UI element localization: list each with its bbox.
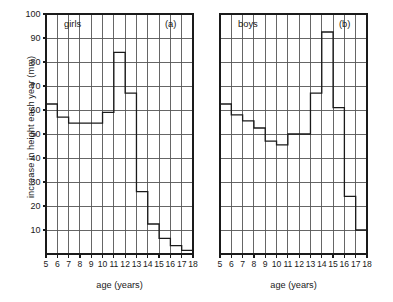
- x-tick-label: 17: [351, 259, 361, 269]
- y-tick-label: 40: [30, 153, 40, 163]
- x-tick-label: 6: [229, 259, 234, 269]
- y-tick-label: 50: [30, 129, 40, 139]
- x-tick-label: 16: [340, 259, 350, 269]
- x-tick-label: 5: [44, 259, 49, 269]
- x-tick-label: 10: [98, 259, 108, 269]
- x-tick-label: 11: [109, 259, 118, 269]
- boys-plot-svg: 56789101112131415161718: [196, 0, 393, 302]
- x-tick-label: 15: [154, 259, 164, 269]
- x-tick-label: 8: [252, 259, 257, 269]
- boys-panel-title: boys: [238, 18, 258, 29]
- x-tick-label: 9: [263, 259, 268, 269]
- x-tick-label: 12: [120, 259, 130, 269]
- y-tick-label: 30: [30, 177, 40, 187]
- x-tick-label: 5: [218, 259, 223, 269]
- x-tick-label: 18: [362, 259, 372, 269]
- x-tick-label: 15: [328, 259, 338, 269]
- figure-container: increase in height each year (mm) 102030…: [0, 0, 393, 302]
- x-tick-label: 11: [283, 259, 292, 269]
- y-tick-label: 80: [30, 57, 40, 67]
- x-tick-label: 7: [66, 259, 71, 269]
- girls-panel-title: girls: [64, 18, 81, 29]
- x-tick-label: 14: [317, 259, 327, 269]
- y-tick-label: 90: [30, 33, 40, 43]
- x-tick-label: 13: [132, 259, 142, 269]
- x-tick-label: 17: [177, 259, 187, 269]
- girls-x-axis-label: age (years): [46, 280, 193, 290]
- chart-panel-girls: 1020304050607080901005678910111213141516…: [0, 0, 200, 302]
- y-tick-label: 60: [30, 105, 40, 115]
- y-tick-label: 100: [25, 9, 40, 19]
- y-tick-label: 70: [30, 81, 40, 91]
- boys-x-axis-label: age (years): [220, 280, 367, 290]
- x-tick-label: 6: [55, 259, 60, 269]
- x-tick-label: 14: [143, 259, 153, 269]
- chart-panel-boys: 56789101112131415161718 boys (b) age (ye…: [196, 0, 393, 302]
- x-tick-label: 8: [78, 259, 83, 269]
- girls-panel-tag: (a): [165, 18, 176, 29]
- x-tick-label: 13: [306, 259, 316, 269]
- y-tick-label: 10: [30, 225, 40, 235]
- x-tick-label: 16: [166, 259, 176, 269]
- x-tick-label: 7: [240, 259, 245, 269]
- x-tick-label: 9: [89, 259, 94, 269]
- x-tick-label: 10: [272, 259, 282, 269]
- boys-panel-tag: (b): [339, 18, 350, 29]
- x-tick-label: 12: [294, 259, 304, 269]
- y-tick-label: 20: [30, 201, 40, 211]
- girls-plot-svg: 1020304050607080901005678910111213141516…: [0, 0, 200, 302]
